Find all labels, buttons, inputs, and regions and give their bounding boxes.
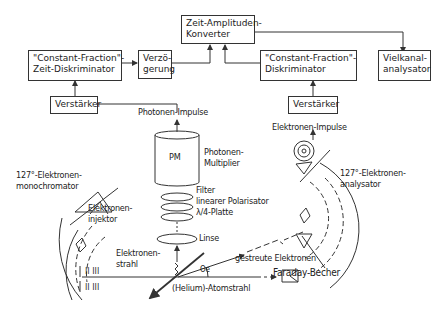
tac-line2: Konverter: [186, 29, 250, 40]
cfd-left-line2: Zeit-Diskriminator: [33, 64, 117, 75]
pm-desc-line2: Multiplier: [204, 158, 240, 168]
atom-beam-label: (Helium)-Atomstrahl: [172, 283, 250, 293]
tac-line1: Zeit-Amplituden-: [186, 18, 250, 29]
photon-pulses-label: Photonen-Impulse: [138, 107, 208, 117]
tac-box: Zeit-Amplituden- Konverter: [181, 15, 255, 44]
quarter-wave-label: λ/4-Platte: [196, 207, 233, 217]
cfd-left-box: "Constant-Fraction"- Zeit-Diskriminator: [28, 50, 122, 81]
delay-line2: gerung: [143, 64, 167, 75]
beam-line1: Elektronen-: [116, 248, 160, 258]
amp-right-label: Verstärker: [293, 99, 333, 110]
lens-label: Linse: [199, 233, 219, 243]
angle-label: Θe: [200, 265, 210, 275]
arrow-tac-to-mca: [254, 32, 403, 52]
mono-line1: 127°-Elektronen-: [16, 170, 82, 180]
analyzer-line2: analysator: [340, 179, 381, 189]
mca-line2: analysator: [383, 64, 426, 75]
cfd-right-line2: Diskriminator: [265, 64, 352, 75]
pm-label: PM: [169, 152, 180, 162]
cfd-right-line1: "Constant-Fraction"-: [265, 53, 352, 64]
arrow-cfdr-to-tac: [225, 45, 260, 63]
delay-line1: Verzö-: [143, 53, 167, 64]
mca-line1: Vielkanal-: [383, 53, 426, 64]
amp-left-label: Verstärker: [55, 99, 93, 110]
mca-box: Vielkanal- analysator: [378, 50, 431, 81]
beam-line2: strahl: [116, 259, 138, 269]
scattered-electrons-label: gestreute Elektronen: [235, 253, 316, 263]
pm-desc-line1: Photonen-: [204, 147, 243, 157]
amp-left-box: Verstärker: [50, 96, 98, 114]
cfd-left-line1: "Constant-Fraction"-: [33, 53, 117, 64]
delay-box: Verzö- gerung: [138, 50, 172, 79]
amp-right-box: Verstärker: [288, 96, 338, 114]
injector-line2: injektor: [88, 214, 117, 224]
analyzer-line1: 127°-Elektronen-: [340, 168, 406, 178]
svg-text:II III: II III: [85, 267, 99, 276]
electron-pulses-label: Elektronen-Impulse: [272, 122, 347, 132]
arrow-delay-to-tac: [172, 45, 210, 63]
svg-text:II III: II III: [85, 283, 99, 292]
cfd-right-box: "Constant-Fraction"- Diskriminator: [260, 50, 357, 81]
injector-line1: Elektronen-: [88, 203, 132, 213]
filter-label: Filter: [196, 185, 215, 195]
mono-line2: monochromator: [16, 181, 78, 191]
faraday-label: Faraday-Becher: [273, 268, 340, 278]
polarizer-label: linearer Polarisator: [196, 196, 269, 206]
